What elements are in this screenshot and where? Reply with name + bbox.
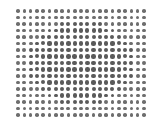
grid-dot xyxy=(111,113,115,117)
grid-dot xyxy=(117,9,121,13)
grid-dot xyxy=(16,74,20,78)
grid-dot xyxy=(66,107,70,111)
grid-dot xyxy=(54,61,58,65)
grid-dot xyxy=(29,42,33,46)
grid-dot xyxy=(79,80,83,84)
grid-dot xyxy=(22,81,26,85)
grid-dot xyxy=(41,54,45,58)
grid-dot xyxy=(22,42,26,46)
grid-dot xyxy=(35,87,39,91)
grid-dot xyxy=(54,22,58,26)
grid-dot xyxy=(111,94,115,98)
grid-dot xyxy=(47,74,51,78)
grid-dot xyxy=(73,48,77,52)
grid-dot xyxy=(85,74,89,78)
grid-dot xyxy=(111,16,115,20)
grid-dot xyxy=(48,16,52,20)
grid-dot xyxy=(98,74,102,78)
grid-dot xyxy=(41,48,45,52)
grid-dot xyxy=(104,16,108,20)
grid-dot xyxy=(85,80,89,84)
grid-dot xyxy=(85,67,89,71)
grid-dot xyxy=(117,80,121,84)
grid-dot xyxy=(16,35,20,39)
grid-dot xyxy=(60,28,64,32)
grid-dot xyxy=(67,113,71,117)
grid-dot xyxy=(79,35,83,39)
grid-dot xyxy=(136,55,140,59)
grid-dot xyxy=(79,54,83,58)
grid-dot xyxy=(85,87,89,91)
grid-dot xyxy=(98,100,102,104)
grid-dot xyxy=(35,29,39,33)
grid-dot xyxy=(85,16,89,20)
grid-dot xyxy=(85,35,89,39)
grid-dot xyxy=(60,16,64,20)
grid-dot xyxy=(29,61,33,65)
grid-dot xyxy=(136,74,140,78)
grid-dot xyxy=(73,28,77,32)
grid-dot xyxy=(35,74,39,78)
grid-dot xyxy=(85,61,90,66)
grid-dot xyxy=(54,67,58,71)
grid-dot xyxy=(79,100,83,104)
grid-dot xyxy=(16,100,20,104)
grid-dot xyxy=(48,100,52,104)
grid-dot xyxy=(123,67,127,71)
grid-dot xyxy=(85,107,89,111)
grid-dot xyxy=(29,9,33,13)
grid-dot xyxy=(85,22,89,26)
grid-dot xyxy=(29,100,33,104)
grid-dot xyxy=(92,107,96,111)
grid-dot xyxy=(47,48,51,52)
grid-dot xyxy=(85,93,89,97)
grid-dot xyxy=(29,113,33,117)
grid-dot xyxy=(123,22,127,26)
grid-dot xyxy=(91,67,95,71)
grid-dot xyxy=(110,87,114,91)
grid-dot xyxy=(142,61,146,65)
grid-dot xyxy=(142,94,146,98)
grid-dot xyxy=(142,22,146,26)
grid-dot xyxy=(79,28,83,32)
grid-dot xyxy=(60,87,64,91)
grid-dot xyxy=(91,74,95,78)
grid-dot xyxy=(60,93,64,97)
grid-dot xyxy=(66,54,70,58)
grid-dot xyxy=(98,80,102,84)
grid-dot xyxy=(98,35,102,39)
grid-dot xyxy=(110,54,114,58)
grid-dot xyxy=(60,80,64,84)
grid-dot xyxy=(130,16,134,20)
grid-dot xyxy=(72,67,76,71)
grid-dot xyxy=(60,54,64,58)
grid-dot xyxy=(110,74,114,78)
grid-dot xyxy=(92,93,96,97)
grid-dot xyxy=(117,16,121,20)
grid-dot xyxy=(98,61,102,65)
grid-dot xyxy=(104,80,108,84)
grid-dot xyxy=(60,107,64,111)
grid-dot xyxy=(47,41,51,45)
grid-dot xyxy=(142,113,146,117)
grid-dot xyxy=(54,41,58,45)
grid-dot xyxy=(117,107,121,111)
grid-dot xyxy=(29,22,33,26)
grid-dot xyxy=(123,35,127,39)
grid-dot xyxy=(130,94,134,98)
grid-dot xyxy=(73,80,77,84)
grid-dot xyxy=(130,107,134,111)
grid-dot xyxy=(73,41,77,45)
grid-dot xyxy=(92,22,96,26)
grid-dot xyxy=(22,29,26,33)
grid-dot xyxy=(60,35,64,39)
grid-dot xyxy=(130,22,134,26)
grid-dot xyxy=(29,55,33,59)
grid-dot xyxy=(110,80,114,84)
grid-dot xyxy=(73,100,77,104)
grid-dot xyxy=(41,41,45,45)
grid-dot xyxy=(22,74,26,78)
grid-dot xyxy=(130,29,134,33)
grid-dot xyxy=(79,113,83,117)
grid-dot xyxy=(129,74,133,78)
